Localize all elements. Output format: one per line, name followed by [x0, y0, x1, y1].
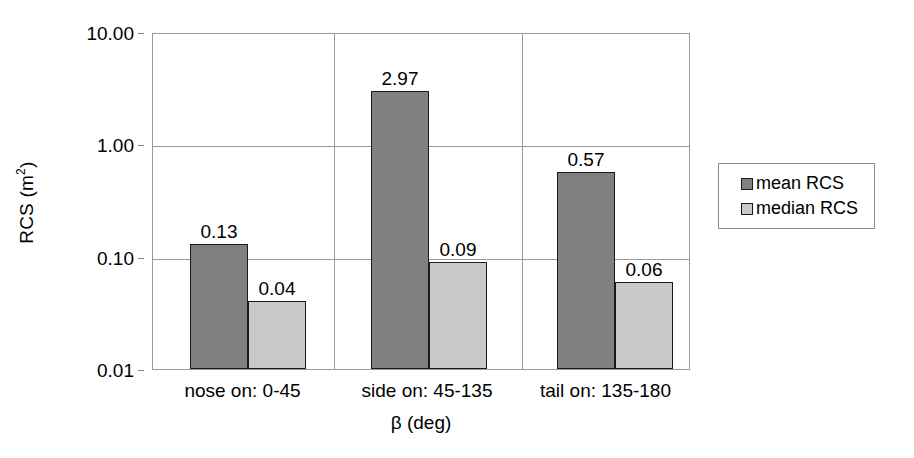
bar-value-median-nose-on: 0.04: [248, 279, 306, 298]
y-tick-label-0-10: 0.10: [97, 248, 134, 267]
x-cat-label-nose-on: nose on: 0-45: [152, 381, 333, 400]
plot-area: 0.13 0.04 2.97 0.09 0.57 0.06: [152, 33, 690, 370]
y-tick-mark-0-10: [138, 258, 144, 259]
x-axis-category-labels: nose on: 0-45 side on: 45-135 tail on: 1…: [152, 381, 690, 407]
bar-median-side-on: [429, 262, 487, 369]
y-axis-ticks: 10.00 1.00 0.10 0.01: [34, 33, 144, 370]
bar-value-median-side-on: 0.09: [429, 240, 487, 259]
bar-mean-tail-on: [557, 172, 615, 369]
bar-value-mean-tail-on: 0.57: [557, 150, 615, 169]
category-divider-2: [522, 34, 523, 369]
bar-value-mean-nose-on: 0.13: [190, 222, 248, 241]
legend-item-median-rcs[interactable]: median RCS: [741, 196, 874, 221]
legend-label-median-rcs: median RCS: [756, 198, 858, 219]
y-tick-mark-0-01: [138, 370, 144, 371]
y-axis-title-exponent: 2: [14, 168, 28, 175]
bar-value-mean-side-on: 2.97: [371, 69, 429, 88]
chart-figure: RCS (m2) 10.00 1.00 0.10 0.01 0.13 0.04 …: [0, 0, 914, 458]
y-tick-label-0-01: 0.01: [97, 361, 134, 380]
bar-mean-nose-on: [190, 244, 248, 369]
x-axis-title: β (deg): [152, 412, 690, 434]
x-cat-label-side-on: side on: 45-135: [333, 381, 521, 400]
category-divider-1: [334, 34, 335, 369]
bar-mean-side-on: [371, 91, 429, 369]
legend-swatch-median-icon: [741, 203, 753, 215]
x-cat-label-tail-on: tail on: 135-180: [521, 381, 690, 400]
legend-swatch-mean-icon: [741, 178, 753, 190]
bar-value-median-tail-on: 0.06: [615, 260, 673, 279]
legend-item-mean-rcs[interactable]: mean RCS: [741, 171, 874, 196]
y-tick-mark-10: [138, 33, 144, 34]
y-tick-label-1: 1.00: [97, 136, 134, 155]
chart-legend: mean RCS median RCS: [718, 163, 875, 229]
bar-median-nose-on: [248, 301, 306, 369]
bar-median-tail-on: [615, 282, 673, 369]
y-tick-label-10: 10.00: [86, 24, 134, 43]
legend-label-mean-rcs: mean RCS: [756, 173, 844, 194]
y-tick-mark-1: [138, 145, 144, 146]
